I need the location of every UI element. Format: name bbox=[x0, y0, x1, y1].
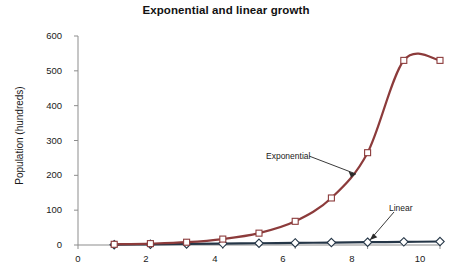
data-point-marker bbox=[436, 237, 444, 245]
plot-area bbox=[0, 0, 452, 269]
data-point-marker bbox=[365, 150, 371, 156]
annotation-exponential-arrow bbox=[309, 156, 356, 177]
series-exponential bbox=[111, 54, 443, 248]
data-point-marker bbox=[327, 238, 335, 246]
chart-container: Exponential and linear growth Population… bbox=[0, 0, 452, 269]
data-point-marker bbox=[147, 241, 153, 247]
data-point-marker bbox=[328, 195, 334, 201]
data-point-marker bbox=[291, 239, 299, 247]
annotation-linear-arrow bbox=[370, 212, 394, 240]
data-point-marker bbox=[437, 57, 443, 63]
data-point-marker bbox=[401, 57, 407, 63]
data-point-marker bbox=[184, 239, 190, 245]
data-point-marker bbox=[255, 239, 263, 247]
y-axis-ticks bbox=[74, 36, 78, 245]
data-point-marker bbox=[220, 236, 226, 242]
data-point-marker bbox=[111, 241, 117, 247]
data-point-marker bbox=[256, 230, 262, 236]
data-point-marker bbox=[292, 218, 298, 224]
